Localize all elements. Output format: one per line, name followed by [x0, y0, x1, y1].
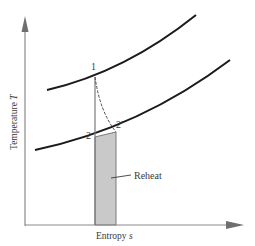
reheat-label: Reheat [134, 170, 162, 181]
ts-diagram: 1 2 2′ Reheat Entropy s Temperature T [0, 0, 255, 246]
actual-expansion-curve [95, 77, 116, 132]
x-axis-label: Entropy s [96, 231, 133, 241]
upper-pressure-curve [47, 15, 196, 90]
point-2-label: 2 [86, 130, 91, 141]
reheat-area [95, 132, 116, 225]
x-axis-arrow-icon [226, 221, 244, 229]
y-axis-label: Temperature T [9, 94, 19, 150]
axes [22, 16, 245, 229]
y-axis-arrow-icon [22, 16, 29, 32]
point-2prime-label: 2′ [116, 119, 123, 130]
point-1-label: 1 [91, 61, 96, 72]
lower-pressure-curve [35, 60, 230, 150]
